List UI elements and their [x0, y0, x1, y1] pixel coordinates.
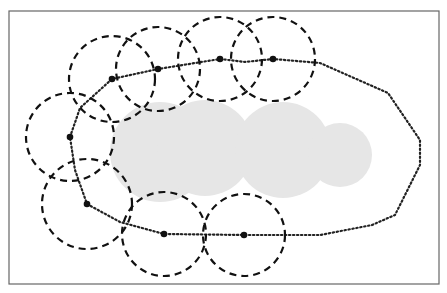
sensor-node-1	[109, 76, 116, 83]
sensor-node-3	[217, 56, 224, 63]
sensor-node-4	[270, 56, 277, 63]
sensor-node-7	[241, 232, 248, 239]
sensor-node-6	[161, 231, 168, 238]
sensor-node-2	[155, 66, 162, 73]
region-circle-3	[308, 123, 372, 187]
coverage-diagram	[0, 0, 447, 293]
sensor-node-0	[67, 134, 74, 141]
sensor-node-5	[84, 201, 91, 208]
